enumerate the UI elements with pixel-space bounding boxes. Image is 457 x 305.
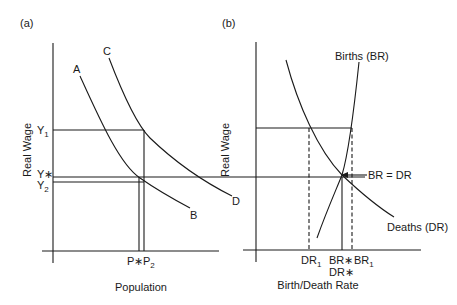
pstar-label: P∗ — [127, 255, 143, 267]
curve-a-label: A — [73, 63, 81, 75]
drstar-label: DR∗ — [329, 266, 354, 278]
curve-b-label: B — [190, 209, 197, 221]
p2-label: P2 — [143, 255, 155, 270]
panel-a-xlabel: Population — [115, 281, 167, 293]
deaths-curve — [286, 60, 394, 217]
births-label: Births (BR) — [335, 50, 389, 62]
panel-b: (b) Real Wage Birth/Death Rate Deaths (D… — [219, 17, 448, 291]
panel-b-ylabel: Real Wage — [219, 123, 231, 177]
equilibrium-label: BR = DR — [368, 169, 412, 181]
brstar-label: BR∗ — [329, 254, 353, 266]
br1-label: BR1 — [354, 254, 374, 269]
panel-a-tag: (a) — [20, 17, 33, 29]
deaths-label: Deaths (DR) — [387, 221, 448, 233]
panel-a-ylabel: Real Wage — [21, 123, 33, 177]
y2-label: Y2 — [37, 179, 49, 194]
malthusian-diagram: (a) Real Wage Population A B C D Y1 Y∗ Y… — [0, 0, 457, 305]
panel-b-xlabel: Birth/Death Rate — [277, 279, 358, 291]
panel-b-tag: (b) — [222, 17, 235, 29]
dr1-label: DR1 — [301, 254, 322, 269]
curve-cd — [109, 58, 232, 196]
panel-a: (a) Real Wage Population A B C D Y1 Y∗ Y… — [20, 17, 365, 293]
curve-d-label: D — [232, 195, 240, 207]
curve-c-label: C — [103, 45, 111, 57]
curve-ab — [80, 76, 190, 208]
y1-label: Y1 — [37, 124, 49, 139]
